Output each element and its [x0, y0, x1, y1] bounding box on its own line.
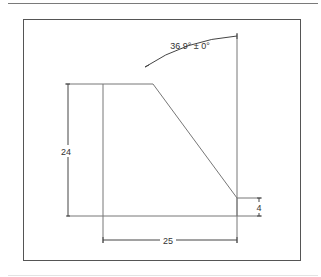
- height-label: 24: [61, 147, 71, 157]
- offset-label: 4: [256, 203, 261, 213]
- width-label: 25: [163, 236, 173, 246]
- technical-drawing: 24 25 4 36.9° ± 0°: [0, 0, 321, 277]
- bottom-rule: [8, 275, 318, 276]
- angle-label: 36.9° ± 0°: [170, 41, 210, 51]
- shape-slanted-edge: [153, 84, 237, 198]
